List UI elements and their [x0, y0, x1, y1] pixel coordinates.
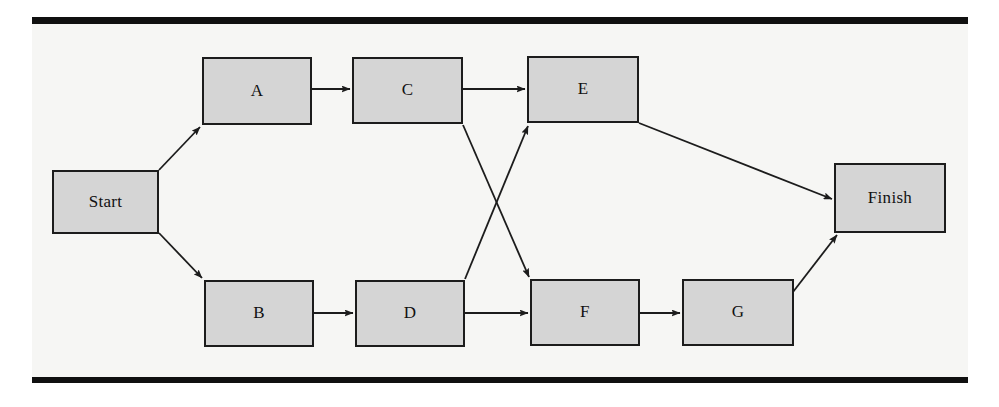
node-g[interactable]: G	[682, 279, 794, 346]
node-finish[interactable]: Finish	[834, 163, 946, 233]
node-f-label: F	[580, 303, 590, 320]
node-finish-label: Finish	[868, 189, 912, 206]
edge-start-to-b	[159, 233, 202, 278]
node-a[interactable]: A	[202, 57, 312, 125]
diagram-page: Start A C E B D F G Finish	[0, 0, 999, 407]
edge-start-to-a	[159, 127, 200, 170]
node-a-label: A	[251, 82, 264, 99]
node-e-label: E	[578, 80, 589, 97]
node-g-label: G	[732, 303, 745, 320]
edge-d-to-e	[465, 126, 528, 279]
node-c[interactable]: C	[352, 57, 463, 124]
node-b-label: B	[253, 304, 265, 321]
node-d[interactable]: D	[355, 280, 465, 347]
node-c-label: C	[402, 81, 414, 98]
node-start-label: Start	[89, 193, 123, 210]
node-d-label: D	[404, 304, 417, 321]
node-f[interactable]: F	[530, 279, 640, 346]
node-e[interactable]: E	[527, 56, 639, 123]
edge-g-to-finish	[793, 235, 837, 292]
node-b[interactable]: B	[204, 280, 314, 347]
node-start[interactable]: Start	[52, 170, 159, 234]
edge-e-to-finish	[639, 123, 832, 199]
